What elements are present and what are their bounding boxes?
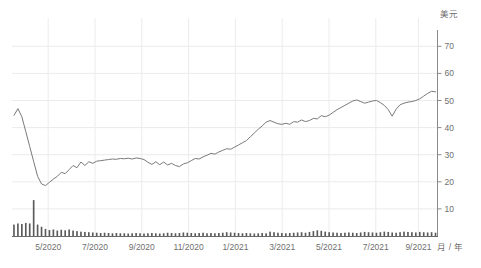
y-axis-tick-label: 60 xyxy=(445,68,455,78)
volume-bar xyxy=(332,232,334,236)
y-axis-tick-label: 40 xyxy=(445,123,455,133)
price-line-series xyxy=(14,91,436,185)
x-axis-tick-label: 1/2021 xyxy=(222,242,248,252)
volume-bar xyxy=(293,233,295,236)
y-axis-tick-label: 50 xyxy=(445,96,455,106)
volume-bar xyxy=(423,232,425,236)
volume-bar xyxy=(186,233,188,236)
volume-bar xyxy=(391,232,393,236)
x-axis-tick-label: 11/2020 xyxy=(174,242,204,252)
volume-bar xyxy=(317,230,319,236)
y-axis-ticks xyxy=(438,46,442,209)
volume-bar xyxy=(289,233,291,236)
volume-bar xyxy=(112,233,114,236)
volume-bar xyxy=(253,234,255,236)
volume-bar xyxy=(281,233,283,236)
horizontal-gridlines xyxy=(12,46,438,209)
stock-price-chart: 10203040506070 5/20207/20209/202011/2020… xyxy=(0,0,481,268)
volume-bar xyxy=(64,230,66,236)
volume-bar xyxy=(21,224,23,236)
volume-bar xyxy=(344,233,346,236)
volume-bar xyxy=(230,232,232,236)
volume-bar xyxy=(380,232,382,236)
price-line-path xyxy=(14,91,436,185)
volume-bar xyxy=(80,232,82,236)
volume-bar xyxy=(45,229,47,236)
volume-bar xyxy=(84,232,86,236)
y-axis-tick-labels: 10203040506070 xyxy=(445,41,455,214)
volume-bar xyxy=(226,232,228,236)
y-axis-title: 美元 xyxy=(440,9,458,19)
volume-bar xyxy=(368,232,370,236)
volume-bar xyxy=(127,234,129,236)
volume-bar xyxy=(348,232,350,236)
volume-bar xyxy=(183,232,185,236)
volume-bar xyxy=(435,233,437,236)
volume-bar xyxy=(376,233,378,236)
volume-bar xyxy=(56,231,58,236)
volume-bar xyxy=(297,232,299,236)
volume-bar xyxy=(49,230,51,236)
volume-bar xyxy=(151,233,153,236)
volume-bar xyxy=(246,233,248,236)
volume-bar xyxy=(305,233,307,236)
volume-bar xyxy=(72,231,74,236)
volume-bar xyxy=(427,232,429,236)
volume-bar xyxy=(37,225,39,236)
volume-bar xyxy=(328,232,330,236)
x-axis-tick-label: 9/2020 xyxy=(129,242,155,252)
volume-bar xyxy=(33,200,35,236)
x-axis-tick-label: 7/2021 xyxy=(363,242,389,252)
vertical-gridlines xyxy=(48,18,418,236)
volume-bar xyxy=(277,233,279,236)
volume-bar xyxy=(257,233,259,236)
x-axis-tick-label: 9/2021 xyxy=(405,242,431,252)
volume-bar xyxy=(360,232,362,236)
volume-bar xyxy=(415,232,417,236)
volume-bar xyxy=(88,232,90,236)
volume-bar xyxy=(309,232,311,236)
y-axis-tick-label: 30 xyxy=(445,150,455,160)
volume-bar xyxy=(419,232,421,236)
volume-bar xyxy=(53,229,55,236)
volume-bar xyxy=(383,232,385,236)
volume-bar xyxy=(167,233,169,236)
volume-bar xyxy=(411,232,413,236)
volume-bar xyxy=(261,233,263,236)
volume-bar xyxy=(336,233,338,236)
volume-bar xyxy=(407,232,409,236)
volume-bar xyxy=(108,233,110,236)
volume-bar-series xyxy=(13,200,436,236)
volume-bar xyxy=(175,233,177,236)
volume-bar xyxy=(135,233,137,236)
y-axis-tick-label: 70 xyxy=(445,41,455,51)
volume-bar xyxy=(194,233,196,236)
volume-bar xyxy=(100,233,102,236)
x-axis-tick-label: 5/2020 xyxy=(35,242,61,252)
volume-bar xyxy=(13,225,15,236)
volume-bar xyxy=(399,232,401,236)
x-axis-title: 月 / 年 xyxy=(437,242,462,252)
volume-bar xyxy=(131,233,133,236)
volume-bar xyxy=(123,233,125,236)
volume-bar xyxy=(234,233,236,236)
volume-bar xyxy=(68,229,70,236)
volume-bar xyxy=(387,232,389,236)
volume-bar xyxy=(25,223,27,236)
volume-bar xyxy=(214,233,216,236)
volume-bar xyxy=(364,232,366,236)
volume-bar xyxy=(155,233,157,236)
volume-bar xyxy=(301,232,303,236)
volume-bar xyxy=(372,232,374,236)
volume-bar xyxy=(104,233,106,236)
axis-lines xyxy=(12,30,438,237)
x-axis-tick-labels: 5/20207/20209/202011/20201/20213/20215/2… xyxy=(35,242,431,252)
volume-bar xyxy=(147,233,149,236)
volume-bar xyxy=(41,227,43,236)
x-axis-tick-label: 7/2020 xyxy=(82,242,108,252)
volume-bar xyxy=(285,233,287,236)
volume-bar xyxy=(171,233,173,236)
chart-canvas: 10203040506070 5/20207/20209/202011/2020… xyxy=(0,0,481,268)
volume-bar xyxy=(163,233,165,236)
volume-bar xyxy=(403,232,405,236)
